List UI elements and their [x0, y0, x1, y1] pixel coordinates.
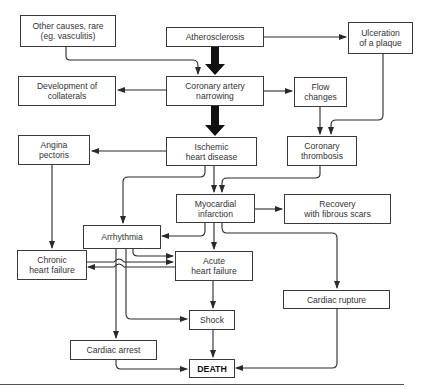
node-infarction: Myocardial infarction — [176, 194, 255, 223]
node-flow-changes: Flow changes — [294, 77, 347, 107]
node-label: Cardiac rupture — [307, 295, 366, 305]
node-chronic-hf: Chronic heart failure — [17, 250, 87, 280]
node-label: Development of collaterals — [37, 81, 97, 101]
edge-arrest-to-death — [116, 359, 187, 369]
node-acute-hf: Acute heart failure — [175, 251, 253, 281]
node-label: Coronary thrombosis — [301, 141, 343, 161]
edge-other-causes-to-narrowing — [66, 46, 198, 74]
edge-arrhythmia-to-acute — [133, 248, 173, 256]
node-label: Other causes, rare (eg. vasculitis) — [32, 21, 103, 41]
node-ischemic: Ischemic heart disease — [166, 137, 257, 166]
thick-arrow-atherosclerosis-to-narrowing — [205, 47, 225, 75]
node-label: Shock — [200, 315, 224, 325]
node-collaterals: Development of collaterals — [18, 76, 116, 106]
edge-acute-to-chronic — [88, 264, 175, 267]
node-label: Myocardial infarction — [195, 199, 237, 219]
node-shock: Shock — [189, 310, 235, 330]
edge-thrombosis-to-infarction — [222, 165, 320, 192]
node-label: Flow changes — [304, 82, 337, 102]
edge-chronic-to-acute — [86, 259, 173, 262]
node-cardiac-arrest: Cardiac arrest — [70, 340, 157, 360]
node-label: Atherosclerosis — [186, 32, 245, 42]
node-ulceration: Ulceration of a plaque — [348, 22, 413, 54]
node-label: Arrhythmia — [101, 232, 143, 242]
edge-infarction-to-arrhythmia — [162, 222, 205, 236]
node-arrhythmia: Arrhythmia — [83, 225, 161, 249]
node-label: Recovery with fibrous scars — [304, 199, 370, 219]
node-rupture: Cardiac rupture — [283, 290, 390, 309]
node-label: DEATH — [197, 364, 227, 374]
node-label: Angina pectoris — [39, 140, 69, 160]
node-label: Ischemic heart disease — [186, 142, 238, 162]
node-label: Acute heart failure — [191, 256, 236, 276]
node-narrowing: Coronary artery narrowing — [166, 76, 264, 106]
thick-arrow-narrowing-to-ischemic — [205, 105, 225, 136]
node-label: Ulceration of a plaque — [359, 28, 402, 48]
node-atherosclerosis: Atherosclerosis — [166, 27, 264, 47]
node-label: Chronic heart failure — [29, 255, 74, 275]
node-death: DEATH — [189, 359, 235, 378]
node-label: Cardiac arrest — [87, 345, 141, 355]
node-label: Coronary artery narrowing — [185, 81, 245, 101]
node-recovery: Recovery with fibrous scars — [284, 194, 391, 224]
edge-rupture-to-death — [236, 308, 337, 368]
node-angina: Angina pectoris — [18, 135, 90, 165]
node-other-causes: Other causes, rare (eg. vasculitis) — [20, 15, 116, 47]
flowchart-diagram: Other causes, rare (eg. vasculitis) Athe… — [0, 0, 424, 389]
node-thrombosis: Coronary thrombosis — [287, 136, 357, 166]
